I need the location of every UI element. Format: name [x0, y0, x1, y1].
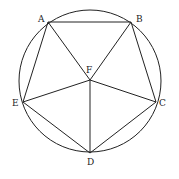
point-label-e: E — [12, 98, 19, 108]
segment-FC — [90, 80, 156, 102]
geometry-diagram: ABCDEF — [0, 0, 179, 179]
segment-EA — [23, 22, 48, 102]
segments — [23, 22, 156, 153]
point-labels: ABCDEF — [12, 14, 166, 167]
point-label-f: F — [86, 65, 92, 75]
segment-FE — [23, 80, 90, 102]
point-label-c: C — [159, 98, 166, 108]
segment-FB — [90, 22, 131, 80]
segment-FA — [48, 22, 90, 80]
point-label-a: A — [37, 14, 45, 24]
segment-CD — [90, 102, 156, 153]
point-label-b: B — [136, 14, 143, 24]
segment-DE — [23, 102, 90, 153]
point-label-d: D — [87, 157, 94, 167]
